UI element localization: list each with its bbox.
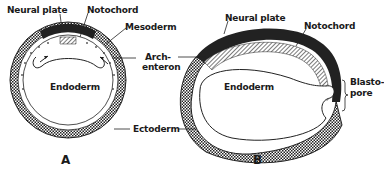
label-blastopore-line2: pore <box>350 88 372 98</box>
label-neural-plate-b: Neural plate <box>225 13 285 23</box>
panel-b-embryo <box>180 29 342 163</box>
panel-label-a: A <box>61 155 70 165</box>
label-archenteron-line1: Arch- <box>145 52 171 62</box>
panel-a-embryo <box>10 22 126 138</box>
label-blastopore-line1: Blasto- <box>350 77 384 87</box>
label-neural-plate-a: Neural plate <box>7 5 67 15</box>
label-notochord-b: Notochord <box>304 21 355 31</box>
label-endoderm-b: Endoderm <box>224 82 274 92</box>
label-ectoderm: Ectoderm <box>133 124 180 134</box>
panel-label-b: B <box>253 155 262 165</box>
label-endoderm-a: Endoderm <box>50 82 100 92</box>
label-archenteron-line2: enteron <box>142 62 181 72</box>
label-mesoderm-a: Mesoderm <box>125 22 176 32</box>
endoderm-b <box>200 69 334 140</box>
notochord-a <box>60 37 76 44</box>
label-notochord-a: Notochord <box>87 5 138 15</box>
